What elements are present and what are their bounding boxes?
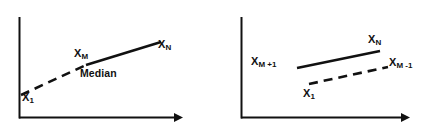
label-xm-left: XM — [74, 48, 88, 61]
solid-segment-right — [297, 51, 380, 68]
label-xn-left: XN — [158, 39, 171, 52]
label-median: Median — [80, 68, 117, 79]
chart-panel-right: XM +1 XN XM -1 X1 — [216, 0, 433, 136]
label-xm-minus-1-right: XM -1 — [389, 57, 412, 70]
label-x1-left: X1 — [22, 92, 34, 105]
figure-container: X1 XM XN Median XM +1 XN XM -1 X1 — [0, 0, 433, 136]
x-axis-arrowhead-right — [401, 113, 410, 122]
dashed-segment-right — [309, 67, 388, 84]
label-x1-right: X1 — [303, 88, 315, 101]
chart-panel-left: X1 XM XN Median — [0, 0, 216, 136]
x-axis-arrowhead-left — [174, 113, 183, 122]
dashed-segment-left — [21, 65, 86, 95]
label-xn-right: XN — [368, 34, 381, 47]
label-xm-plus-1-right: XM +1 — [251, 56, 276, 69]
solid-segment-left — [86, 42, 161, 65]
